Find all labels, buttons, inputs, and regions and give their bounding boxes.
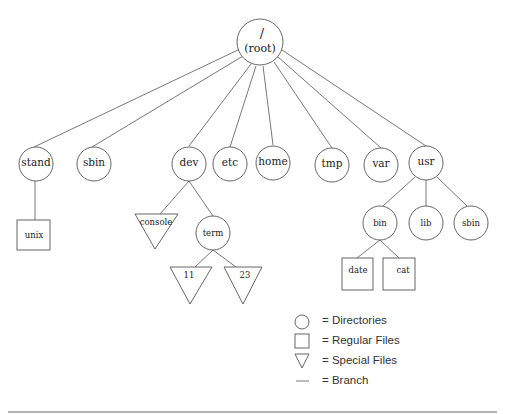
branch-root-usr bbox=[282, 50, 426, 146]
triangle-icon bbox=[295, 354, 309, 368]
branch-root-sbin bbox=[92, 56, 243, 147]
branch-root-var bbox=[278, 57, 381, 148]
node-root: / (root) bbox=[237, 19, 283, 65]
branch-term-23 bbox=[213, 250, 236, 267]
branch-usr-sbin bbox=[437, 177, 467, 206]
node-label: home bbox=[258, 155, 287, 167]
node-label: tmp bbox=[322, 157, 343, 169]
node-home: home bbox=[256, 146, 290, 180]
node-bin: bin bbox=[363, 206, 397, 240]
legend-item-special-files: = Special Files bbox=[295, 354, 397, 368]
branch-dev-term bbox=[189, 181, 213, 216]
node-label: sbin bbox=[83, 156, 105, 168]
file-system-tree-diagram: / (root) stand sbin dev etc home tmp var… bbox=[0, 0, 505, 414]
node-cat: cat bbox=[383, 258, 415, 290]
branch-root-dev bbox=[189, 64, 251, 146]
node-usr-sbin: sbin bbox=[454, 206, 488, 240]
node-label: 11 bbox=[184, 270, 195, 280]
node-label: term bbox=[203, 228, 224, 238]
node-label: lib bbox=[421, 218, 432, 228]
node-unix: unix bbox=[17, 220, 50, 250]
node-11: 11 bbox=[170, 267, 212, 304]
branch-usr-bin bbox=[383, 177, 415, 206]
node-label: sbin bbox=[462, 218, 481, 228]
node-label: unix bbox=[25, 230, 44, 240]
node-console: console bbox=[135, 214, 178, 249]
branch-root-home bbox=[263, 66, 273, 145]
branch-root-stand bbox=[34, 49, 240, 147]
branch-root-etc bbox=[230, 66, 256, 147]
node-var: var bbox=[364, 148, 398, 182]
node-label: console bbox=[140, 217, 173, 227]
node-label: cat bbox=[396, 265, 410, 275]
legend-label: = Directories bbox=[322, 314, 387, 326]
legend-label: = Special Files bbox=[322, 354, 397, 366]
legend-item-directories: = Directories bbox=[295, 314, 387, 329]
node-lib: lib bbox=[409, 206, 443, 240]
node-label: bin bbox=[373, 218, 387, 228]
node-label: usr bbox=[417, 155, 435, 167]
legend-label: = Regular Files bbox=[322, 334, 400, 346]
node-dev: dev bbox=[172, 147, 206, 181]
legend: = Directories = Regular Files = Special … bbox=[295, 314, 400, 386]
legend-item-regular-files: = Regular Files bbox=[295, 334, 400, 348]
node-label: etc bbox=[222, 156, 238, 168]
node-label: date bbox=[349, 265, 368, 275]
branch-root-tmp bbox=[274, 62, 332, 148]
node-label: var bbox=[371, 157, 390, 169]
node-sbin: sbin bbox=[77, 147, 111, 181]
node-stand: stand bbox=[19, 147, 53, 181]
branch-dev-console bbox=[160, 181, 189, 214]
node-term: term bbox=[196, 216, 230, 250]
node-label: dev bbox=[180, 156, 199, 168]
node-23: 23 bbox=[224, 267, 262, 304]
node-label: stand bbox=[21, 156, 51, 168]
square-icon bbox=[295, 334, 309, 348]
legend-label: = Branch bbox=[322, 374, 368, 386]
branch-bin-date bbox=[357, 240, 380, 258]
root-name-label: (root) bbox=[244, 42, 276, 55]
branch-bin-cat bbox=[380, 240, 399, 258]
node-usr: usr bbox=[409, 146, 443, 180]
branch-term-11 bbox=[195, 250, 213, 267]
root-slash-label: / bbox=[260, 26, 265, 41]
legend-item-branch: = Branch bbox=[296, 374, 368, 386]
node-date: date bbox=[342, 258, 373, 290]
circle-icon bbox=[295, 315, 309, 329]
node-label: 23 bbox=[240, 270, 251, 280]
node-tmp: tmp bbox=[315, 148, 349, 182]
node-etc: etc bbox=[213, 147, 247, 181]
